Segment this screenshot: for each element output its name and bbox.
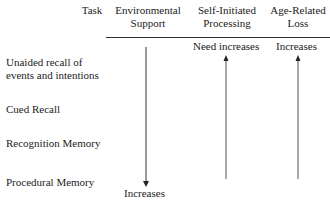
environmental-support-down-arrow-icon (143, 47, 149, 187)
self-initiated-up-arrow-icon (224, 55, 229, 179)
age-related-up-arrow-icon (296, 55, 301, 179)
arrows-layer (0, 0, 330, 201)
